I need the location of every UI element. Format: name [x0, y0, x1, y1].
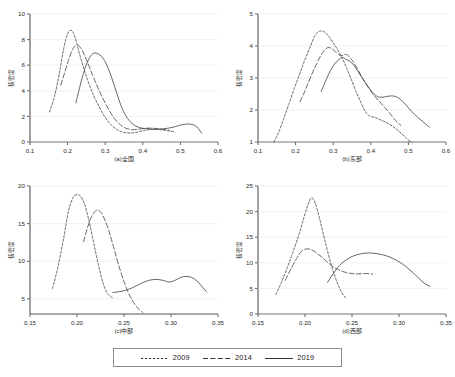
svg-text:0.2: 0.2: [63, 147, 72, 154]
curve-panel-b-2019: [321, 58, 429, 128]
svg-text:0.3: 0.3: [329, 147, 338, 154]
svg-text:15: 15: [246, 233, 253, 240]
svg-text:核密度: 核密度: [235, 69, 243, 87]
curve-panel-b-2014: [300, 48, 401, 126]
svg-text:25: 25: [246, 182, 253, 189]
svg-text:0.25: 0.25: [118, 319, 131, 326]
svg-text:(d)西部: (d)西部: [342, 327, 361, 335]
svg-text:10: 10: [18, 257, 25, 264]
panel-d-plot: 05101520250.150.200.250.300.35(d)西部核密度: [235, 182, 453, 335]
svg-text:0.3: 0.3: [101, 147, 110, 154]
svg-text:0.35: 0.35: [212, 319, 225, 326]
panel-d-svg: 05101520250.150.200.250.300.35(d)西部核密度: [228, 172, 455, 342]
curve-panel-c-2009: [53, 195, 113, 299]
svg-text:0.6: 0.6: [214, 147, 223, 154]
svg-text:0.15: 0.15: [24, 319, 37, 326]
svg-text:0.30: 0.30: [393, 319, 406, 326]
svg-text:(b)东部: (b)东部: [342, 155, 361, 163]
svg-text:0.6: 0.6: [442, 147, 451, 154]
svg-text:0.5: 0.5: [404, 147, 413, 154]
curve-panel-a-2009: [50, 30, 176, 133]
legend-label-2009: 2009: [173, 353, 190, 362]
svg-text:0.30: 0.30: [165, 319, 178, 326]
curve-panel-c-2019: [113, 276, 207, 292]
svg-text:2: 2: [250, 106, 254, 113]
panel-grid: 02468100.10.20.30.40.50.6(a)全国核密度 123450…: [0, 0, 455, 340]
svg-text:0.4: 0.4: [366, 147, 375, 154]
svg-text:10: 10: [18, 10, 25, 17]
svg-text:0.20: 0.20: [71, 319, 84, 326]
chart-panel-a: 02468100.10.20.30.40.50.6(a)全国核密度: [0, 0, 227, 170]
svg-text:0.2: 0.2: [291, 147, 300, 154]
svg-text:0.5: 0.5: [176, 147, 185, 154]
legend-entry-2014: 2014: [203, 353, 252, 362]
curve-panel-d-2014: [285, 249, 372, 280]
chart-panel-c: 51015200.150.200.250.300.35(c)中部核密度: [0, 172, 227, 342]
svg-text:0.20: 0.20: [299, 319, 312, 326]
svg-text:0: 0: [22, 138, 26, 145]
svg-text:0.1: 0.1: [254, 147, 263, 154]
svg-text:0: 0: [250, 310, 254, 317]
curve-panel-d-2019: [328, 253, 430, 286]
svg-text:4: 4: [22, 87, 26, 94]
panel-c-svg: 51015200.150.200.250.300.35(c)中部核密度: [0, 172, 227, 342]
chart-panel-d: 05101520250.150.200.250.300.35(d)西部核密度: [228, 172, 455, 342]
svg-text:20: 20: [246, 208, 253, 215]
chart-panel-b: 123450.10.20.30.40.50.6(b)东部核密度: [228, 0, 455, 170]
svg-text:4: 4: [250, 42, 254, 49]
legend-entry-2009: 2009: [141, 353, 190, 362]
legend-label-2019: 2019: [297, 353, 314, 362]
legend-entry-2019: 2019: [265, 353, 314, 362]
legend-label-2014: 2014: [235, 353, 252, 362]
panel-c-plot: 51015200.150.200.250.300.35(c)中部核密度: [7, 182, 225, 335]
panel-a-plot: 02468100.10.20.30.40.50.6(a)全国核密度: [7, 10, 223, 163]
panel-b-plot: 123450.10.20.30.40.50.6(b)东部核密度: [235, 10, 451, 163]
legend-swatch-2019: [265, 357, 293, 358]
svg-text:15: 15: [18, 220, 25, 227]
svg-text:20: 20: [18, 182, 25, 189]
svg-text:8: 8: [22, 36, 26, 43]
legend-swatch-2009: [141, 357, 169, 358]
svg-text:0.35: 0.35: [440, 319, 453, 326]
chart-legend: 2009 2014 2019: [113, 348, 342, 367]
kernel-density-figure: 02468100.10.20.30.40.50.6(a)全国核密度 123450…: [0, 0, 455, 377]
curve-panel-d-2009: [276, 198, 346, 298]
svg-text:5: 5: [22, 295, 26, 302]
legend-swatch-2014: [203, 357, 231, 358]
svg-text:0.4: 0.4: [138, 147, 147, 154]
svg-text:0.25: 0.25: [346, 319, 359, 326]
svg-text:(c)中部: (c)中部: [115, 327, 134, 335]
svg-text:5: 5: [250, 10, 254, 17]
svg-text:核密度: 核密度: [235, 241, 243, 259]
svg-text:核密度: 核密度: [7, 241, 15, 259]
svg-text:6: 6: [22, 61, 26, 68]
svg-text:0.1: 0.1: [26, 147, 35, 154]
panel-a-svg: 02468100.10.20.30.40.50.6(a)全国核密度: [0, 0, 227, 170]
panel-b-svg: 123450.10.20.30.40.50.6(b)东部核密度: [228, 0, 455, 170]
svg-text:10: 10: [246, 259, 253, 266]
svg-text:(a)全国: (a)全国: [114, 155, 133, 163]
svg-text:1: 1: [250, 138, 254, 145]
svg-text:0.15: 0.15: [252, 319, 265, 326]
svg-text:3: 3: [250, 74, 254, 81]
svg-text:5: 5: [250, 285, 254, 292]
svg-text:核密度: 核密度: [7, 69, 15, 87]
svg-text:2: 2: [22, 113, 26, 120]
curve-panel-b-2009: [274, 31, 412, 143]
